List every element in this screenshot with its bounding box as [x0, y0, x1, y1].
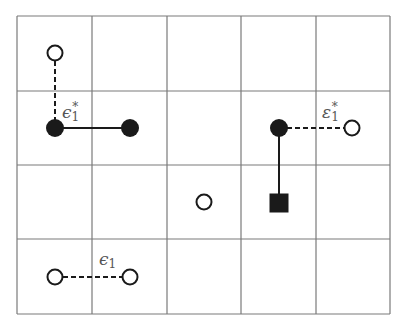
open-circle-node — [123, 270, 138, 285]
label-subscript: 1 — [109, 257, 117, 271]
label-epsilon-bottom: ϵ1 — [99, 251, 116, 270]
filled-circle-node — [121, 119, 139, 137]
label-symbol: ϵ — [62, 102, 72, 122]
label-superscript: * — [72, 100, 78, 114]
filled-square-node — [270, 194, 289, 213]
label-superscript: * — [332, 100, 338, 114]
open-circle-node — [48, 46, 63, 61]
grid-diagram — [0, 0, 404, 333]
open-circle-node — [48, 270, 63, 285]
label-epsilon-star-right: ε1* — [322, 101, 338, 123]
label-symbol: ε — [322, 102, 331, 122]
grid-lines — [17, 16, 390, 314]
label-epsilon-star-left: ϵ1* — [62, 101, 78, 123]
filled-circle-node — [270, 119, 288, 137]
open-circle-node — [345, 121, 360, 136]
label-symbol: ϵ — [99, 249, 109, 269]
open-circle-node — [197, 195, 212, 210]
